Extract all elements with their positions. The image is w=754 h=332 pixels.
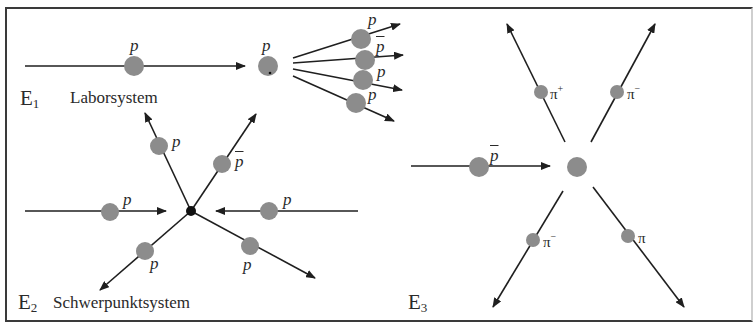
e3-pion-upper-right [610,85,624,99]
e3-target-proton [567,157,587,177]
e3-incoming-antiproton [469,157,489,177]
e1-product-2 [355,50,375,70]
e2-incoming-left-proton [101,203,119,221]
e1-outgoing-arrow-4 [293,76,394,121]
e2-out-lower-left-label: p [150,254,159,274]
e1-product-1 [351,29,371,49]
e2-product-upper-right [213,155,231,173]
e3-out-lower-right-arrow [593,187,684,307]
e2-out-upper-left-arrow [145,113,191,211]
e3-out-upper-right-arrow [591,24,655,142]
e3-panel-id: E3 [408,290,427,316]
e2-system-label: Schwerpunktsystem [53,293,190,313]
e3-pion-upper-left-label: π+ [550,83,563,103]
e2-incoming-right-label: p [283,190,292,210]
e1-target-proton [258,56,278,76]
e1-product-label-2: p [376,37,385,57]
e1-product-label-1: p [368,10,377,30]
e1-panel-id: E1 [20,86,39,112]
e1-product-4 [346,93,366,113]
e1-target-dot [269,72,272,75]
e2-panel-id: E2 [18,290,37,316]
e3-pion-lower-left-label: π− [543,231,556,251]
e2-collision-vertex [186,206,196,216]
e1-system-label: Laborsystem [70,88,158,108]
e1-product-label-4: p [368,85,377,105]
e1-outgoing-arrow-2 [293,55,403,63]
e2-incoming-left-label: p [123,190,132,210]
e2-product-lower-right [241,237,259,255]
e3-pion-lower-right [621,229,635,243]
e1-product-label-3: p [377,62,386,82]
e2-incoming-right-proton [260,202,278,220]
e3-pion-lower-right-label: π [638,227,646,247]
e1-projectile-proton [124,56,144,76]
e1-target-label: p [262,36,271,56]
e3-pion-lower-left [526,233,540,247]
e3-incoming-label: p [490,146,499,166]
e2-out-upper-left-label: p [172,132,181,152]
e2-out-lower-right-label: p [243,255,252,275]
e3-pion-upper-right-label: π− [627,83,640,103]
e3-pion-upper-left [534,85,548,99]
particle-collision-diagram: p p p p p p E1 Laborsystem p p p p p p E… [0,0,754,332]
e1-incoming-label: p [130,36,139,56]
e2-out-upper-right-label: p [235,152,244,172]
e2-product-upper-left [150,137,168,155]
